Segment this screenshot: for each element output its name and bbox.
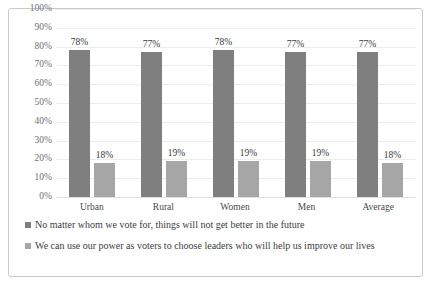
y-axis-tick-label: 80%	[9, 42, 52, 52]
legend-item[interactable]: We can use our power as voters to choose…	[25, 240, 412, 252]
y-axis: 0%10%20%30%40%50%60%70%80%90%100%	[9, 9, 55, 197]
bars-area: 78%18%77%19%78%19%77%19%77%18%	[56, 9, 416, 197]
legend-swatch-icon	[25, 222, 31, 228]
chart-legend: No matter whom we vote for, things will …	[25, 219, 412, 261]
bar-value-label: 77%	[287, 40, 304, 50]
bar-group: 78%19%	[200, 9, 272, 197]
plot-area: 0%10%20%30%40%50%60%70%80%90%100% 78%18%…	[9, 9, 424, 209]
bar[interactable]	[238, 161, 259, 197]
legend-swatch-icon	[25, 243, 31, 249]
y-axis-tick-label: 50%	[9, 98, 52, 108]
bar-column: 77%	[285, 9, 306, 197]
y-axis-tick-label: 100%	[9, 4, 52, 14]
bar-column: 77%	[357, 9, 378, 197]
bar-group: 77%19%	[128, 9, 200, 197]
x-axis-category-labels: UrbanRuralWomenMenAverage	[56, 199, 414, 215]
bar[interactable]	[382, 163, 403, 197]
bar-column: 18%	[382, 9, 403, 197]
bar[interactable]	[213, 50, 234, 197]
bar[interactable]	[310, 161, 331, 197]
y-axis-tick-label: 90%	[9, 23, 52, 33]
bar-value-label: 78%	[215, 38, 232, 48]
bar-column: 19%	[166, 9, 187, 197]
bar-group: 77%18%	[344, 9, 416, 197]
y-axis-tick-label: 20%	[9, 155, 52, 165]
bar[interactable]	[166, 161, 187, 197]
bar-group: 77%19%	[272, 9, 344, 197]
bar-group: 78%18%	[56, 9, 128, 197]
y-axis-tick-label: 40%	[9, 117, 52, 127]
bar-column: 19%	[310, 9, 331, 197]
axis-baseline	[56, 197, 416, 198]
bar-column: 78%	[213, 9, 234, 197]
y-axis-tick-label: 10%	[9, 173, 52, 183]
bar-value-label: 78%	[71, 38, 88, 48]
x-axis-label-men: Men	[271, 199, 343, 215]
bar-value-label: 19%	[168, 149, 185, 159]
legend-label: We can use our power as voters to choose…	[35, 240, 375, 252]
bar-column: 19%	[238, 9, 259, 197]
x-axis-label-rural: Rural	[128, 199, 200, 215]
bar-value-label: 19%	[240, 149, 257, 159]
y-axis-tick-label: 60%	[9, 79, 52, 89]
bar[interactable]	[357, 52, 378, 197]
bar-value-label: 18%	[96, 151, 113, 161]
bar-value-label: 18%	[384, 151, 401, 161]
bar[interactable]	[141, 52, 162, 197]
bar[interactable]	[69, 50, 90, 197]
legend-label: No matter whom we vote for, things will …	[35, 219, 305, 231]
bar-value-label: 77%	[143, 40, 160, 50]
x-axis-label-urban: Urban	[56, 199, 128, 215]
bar-column: 78%	[69, 9, 90, 197]
chart-container: 0%10%20%30%40%50%60%70%80%90%100% 78%18%…	[8, 8, 423, 277]
x-axis-label-average: Average	[342, 199, 414, 215]
y-axis-tick-label: 30%	[9, 136, 52, 146]
legend-item[interactable]: No matter whom we vote for, things will …	[25, 219, 412, 231]
y-axis-tick-label: 0%	[9, 192, 52, 202]
bar[interactable]	[94, 163, 115, 197]
bar-column: 77%	[141, 9, 162, 197]
y-axis-tick-label: 70%	[9, 61, 52, 71]
bar-value-label: 77%	[359, 40, 376, 50]
bar-column: 18%	[94, 9, 115, 197]
bar-value-label: 19%	[312, 149, 329, 159]
bar[interactable]	[285, 52, 306, 197]
x-axis-label-women: Women	[199, 199, 271, 215]
